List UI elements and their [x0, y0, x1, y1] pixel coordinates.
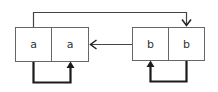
- right-node-cell-0: b: [133, 28, 168, 60]
- edge-left-loop: [34, 62, 71, 83]
- arrowhead-up-icon: [147, 61, 155, 68]
- right-node-cell-1: b: [169, 28, 204, 60]
- left-node-cell-1: a: [52, 28, 88, 61]
- arrowhead-up-icon: [67, 62, 75, 69]
- edge-right-loop: [151, 61, 187, 82]
- left-node-cell-0: a: [16, 28, 51, 61]
- edge-top: [34, 13, 187, 28]
